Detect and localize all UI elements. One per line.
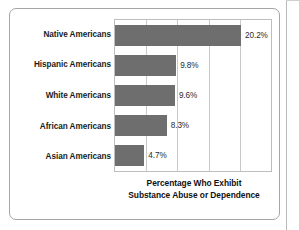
category-label-row: Asian Americans [14, 141, 111, 172]
chart-caption-line-2: Substance Abuse or Dependence [114, 190, 274, 202]
category-label-row: Native Americans [14, 19, 111, 50]
plot-area: 20.2% 9.8% 9.6% 8.3% 4.7% [114, 19, 272, 172]
bar [115, 25, 241, 46]
bar-value-label: 9.8% [180, 61, 198, 70]
bar-row: 9.6% [115, 80, 271, 110]
bar [115, 55, 176, 76]
chart-caption: Percentage Who Exhibit Substance Abuse o… [114, 178, 274, 201]
category-label: Asian Americans [46, 152, 111, 161]
category-label: Hispanic Americans [34, 60, 111, 69]
bar [115, 115, 167, 136]
bar-row: 8.3% [115, 111, 271, 141]
category-label: Native Americans [43, 30, 111, 39]
bar-value-label: 8.3% [171, 121, 189, 130]
bar-row: 9.8% [115, 50, 271, 80]
bar-value-label: 9.6% [179, 91, 197, 100]
category-label-row: African Americans [14, 111, 111, 142]
bar [115, 85, 175, 106]
category-label: White Americans [46, 91, 111, 100]
bar-chart: Native Americans Hispanic Americans Whit… [0, 0, 299, 230]
bar [115, 145, 144, 166]
bar-row: 20.2% [115, 20, 271, 50]
bar-value-label: 4.7% [148, 151, 166, 160]
chart-caption-line-1: Percentage Who Exhibit [114, 178, 274, 190]
category-axis: Native Americans Hispanic Americans Whit… [14, 19, 111, 172]
category-label: African Americans [40, 122, 111, 131]
bar-row: 4.7% [115, 141, 271, 171]
category-label-row: White Americans [14, 80, 111, 111]
bars-layer: 20.2% 9.8% 9.6% 8.3% 4.7% [115, 20, 271, 171]
bar-value-label: 20.2% [245, 31, 268, 40]
category-label-row: Hispanic Americans [14, 50, 111, 81]
